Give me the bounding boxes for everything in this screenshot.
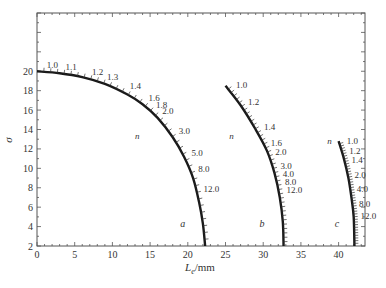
n-value-label: 5.0 bbox=[192, 148, 204, 158]
x-tick-label: 35 bbox=[296, 249, 306, 260]
curves bbox=[37, 71, 354, 246]
n-value-label: 1.2 bbox=[92, 67, 103, 77]
y-axis-label: σ bbox=[2, 137, 14, 143]
y-tick-label: 20 bbox=[23, 66, 33, 77]
curve-b bbox=[226, 86, 284, 246]
n-value-label: 2.0 bbox=[162, 106, 174, 116]
y-tick-label: 6 bbox=[28, 202, 33, 213]
x-axis-label: Le/mm bbox=[184, 261, 215, 276]
n-value-label: 1.4 bbox=[351, 155, 363, 165]
param-n-label: n bbox=[327, 136, 332, 146]
x-tick-label: 15 bbox=[145, 249, 155, 260]
x-tick-label: 25 bbox=[221, 249, 231, 260]
n-value-label: 1.0 bbox=[236, 80, 248, 90]
chart-container: 05101520253035402468101214161820 1.01.11… bbox=[0, 0, 386, 288]
n-value-label: 12.0 bbox=[360, 211, 376, 221]
x-tick-label: 40 bbox=[334, 249, 344, 260]
n-value-label: 3.0 bbox=[179, 126, 191, 136]
curve-label-b: b bbox=[259, 218, 264, 229]
n-value-label: 12.0 bbox=[287, 185, 303, 195]
x-tick-label: 5 bbox=[72, 249, 77, 260]
curve-label-a: a bbox=[180, 218, 185, 229]
n-value-label: 1.2 bbox=[248, 97, 259, 107]
x-tick-label: 0 bbox=[35, 249, 40, 260]
y-tick-label: 4 bbox=[28, 221, 33, 232]
y-tick-label: 14 bbox=[23, 124, 33, 135]
n-value-label: 8.0 bbox=[198, 164, 210, 174]
y-tick-label: 16 bbox=[23, 105, 33, 116]
n-value-label: 2.0 bbox=[275, 147, 287, 157]
param-n-label: n bbox=[135, 131, 140, 141]
curve-tick bbox=[155, 113, 158, 116]
y-tick-label: 8 bbox=[28, 182, 33, 193]
y-tick-label: 10 bbox=[23, 163, 33, 174]
n-value-label: 8.0 bbox=[359, 199, 371, 209]
n-marks: 1.01.11.21.31.41.61.82.03.05.08.012.0na1… bbox=[44, 60, 377, 243]
axes: 05101520253035402468101214161820 bbox=[23, 13, 365, 260]
curve-tick bbox=[150, 108, 153, 111]
y-tick-label: 18 bbox=[23, 85, 33, 96]
n-value-label: 1.2 bbox=[349, 146, 360, 156]
x-tick-label: 20 bbox=[183, 249, 193, 260]
n-value-label: 1.3 bbox=[107, 72, 119, 82]
chart-svg: 05101520253035402468101214161820 1.01.11… bbox=[0, 0, 386, 288]
n-value-label: 1.4 bbox=[130, 81, 142, 91]
y-tick-label: 12 bbox=[23, 143, 33, 154]
n-value-label: 1.4 bbox=[264, 122, 276, 132]
n-value-label: 2.0 bbox=[354, 170, 366, 180]
n-value-label: 1.0 bbox=[347, 136, 359, 146]
n-value-label: 12.0 bbox=[204, 184, 220, 194]
y-tick-label: 2 bbox=[28, 241, 33, 252]
n-value-label: 1.0 bbox=[47, 60, 59, 70]
n-value-label: 4.0 bbox=[357, 184, 369, 194]
curve-label-c: c bbox=[335, 218, 340, 229]
param-n-label: n bbox=[229, 131, 234, 141]
x-tick-label: 30 bbox=[258, 249, 268, 260]
x-tick-label: 10 bbox=[107, 249, 117, 260]
n-value-label: 1.1 bbox=[66, 62, 77, 72]
